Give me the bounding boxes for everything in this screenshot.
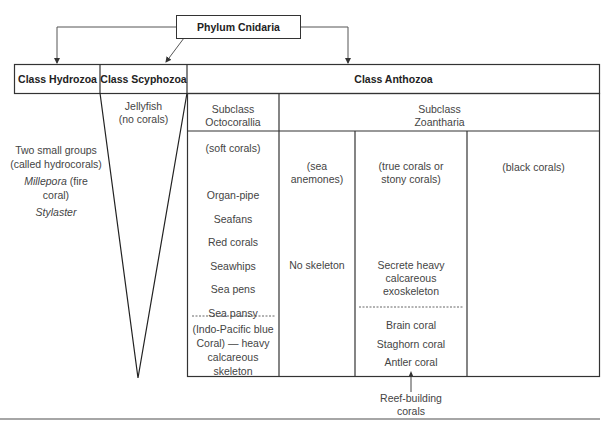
subclass-octocorallia-header: Subclass Octocorallia <box>187 103 279 129</box>
stony-group: (true corals or stony corals) <box>355 160 467 186</box>
subclass-zoantharia-header: Subclass Zoantharia <box>279 103 600 129</box>
scyphozoa-description: Jellyfish (no corals) <box>110 100 177 126</box>
hydrozoa-millepora: Millepora (fire coral) <box>10 174 102 202</box>
phylum-box: Phylum Cnidaria <box>176 15 301 39</box>
hydrozoa-line-2: (called hydrocorals) <box>10 157 102 171</box>
anemones-group: (sea anemones) <box>279 160 355 186</box>
hydrozoa-stylaster: Stylaster <box>10 205 102 219</box>
stony-skeleton: Secrete heavy calcareous exoskeleton <box>355 259 467 298</box>
hydrozoa-description: Two small groups (called hydrocorals) Mi… <box>10 143 102 219</box>
reef-building-annotation: Reef-building corals <box>370 392 452 418</box>
class-anthozoa-header: Class Anthozoa <box>187 73 600 86</box>
black-corals-group: (black corals) <box>467 161 600 174</box>
class-hydrozoa-header: Class Hydrozoa <box>15 73 100 86</box>
hydrozoa-line-1: Two small groups <box>10 143 102 157</box>
octocorallia-group: (soft corals) <box>187 142 279 155</box>
octocorallia-note: (Indo-Pacific blue Coral) — heavy calcar… <box>187 322 279 378</box>
octocorallia-members: Organ-pipe Seafans Red corals Seawhips S… <box>187 184 279 325</box>
stony-members: Brain coral Staghorn coral Antler coral <box>355 316 467 372</box>
phylum-label: Phylum Cnidaria <box>197 21 280 33</box>
anemones-skeleton: No skeleton <box>279 259 355 272</box>
class-scyphozoa-header: Class Scyphozoa <box>100 73 187 86</box>
